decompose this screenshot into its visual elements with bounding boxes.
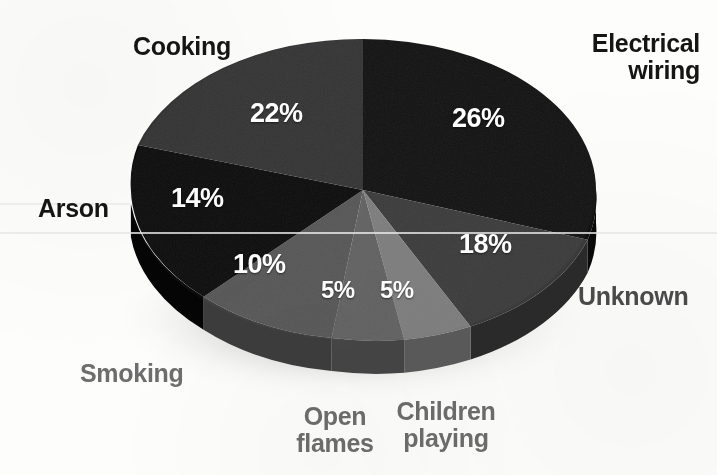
slice-value-unknown: 18% — [459, 229, 512, 260]
slice-value-smoking: 10% — [233, 249, 286, 280]
slice-value-open-flames: 5% — [321, 276, 355, 304]
category-label-open-flames-line1: Open — [292, 403, 378, 430]
category-label-arson: Arson — [38, 195, 109, 222]
slice-value-electrical-wiring: 26% — [452, 103, 505, 134]
category-label-children-playing-line1: Children — [386, 398, 506, 425]
category-label-children-playing-line2: playing — [386, 425, 506, 452]
slice-value-cooking: 22% — [250, 98, 303, 129]
slice-value-children-playing: 5% — [380, 276, 414, 304]
slice-value-arson: 14% — [171, 183, 224, 214]
category-label-open-flames: Open flames — [292, 403, 378, 457]
category-label-electrical-wiring: Electrical wiring — [510, 30, 700, 84]
pie-chart: 26% 22% 14% 18% 10% 5% 5% Cooking Electr… — [0, 0, 717, 475]
category-label-open-flames-line2: flames — [292, 430, 378, 457]
category-label-smoking: Smoking — [80, 360, 183, 387]
scan-line-artifact — [0, 232, 717, 234]
category-label-electrical-wiring-line2: wiring — [510, 57, 700, 84]
category-label-cooking: Cooking — [133, 33, 231, 60]
category-label-electrical-wiring-line1: Electrical — [510, 30, 700, 57]
category-label-unknown: Unknown — [578, 283, 688, 310]
chart-page: 26% 22% 14% 18% 10% 5% 5% Cooking Electr… — [0, 0, 717, 475]
category-label-children-playing: Children playing — [386, 398, 506, 452]
